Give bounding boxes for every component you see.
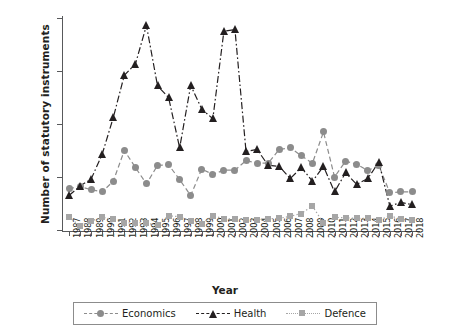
data-point	[77, 223, 83, 229]
x-tick-mark	[213, 232, 214, 236]
data-point	[386, 202, 394, 210]
data-point	[65, 191, 73, 199]
data-point	[66, 214, 72, 220]
data-point	[142, 21, 150, 29]
legend-item-defence[interactable]: Defence	[286, 308, 366, 319]
data-point	[131, 60, 139, 68]
data-point	[353, 161, 360, 168]
data-point	[110, 178, 117, 185]
data-point	[220, 27, 228, 35]
data-point	[309, 203, 315, 209]
data-point	[276, 146, 283, 153]
y-tick-mark	[57, 230, 62, 231]
data-point	[397, 198, 405, 206]
data-point	[109, 113, 117, 121]
y-axis-title: Number of statutory instruments	[39, 9, 51, 239]
x-tick-mark	[80, 232, 81, 236]
data-point	[209, 114, 217, 122]
data-point	[99, 214, 105, 220]
data-point	[176, 143, 184, 151]
square-marker	[286, 309, 320, 319]
x-tick-mark	[124, 232, 125, 236]
x-tick-mark	[390, 232, 391, 236]
data-point	[264, 161, 272, 169]
data-point	[319, 162, 327, 170]
series-lines	[62, 18, 419, 230]
data-point	[232, 216, 238, 222]
x-tick-mark	[301, 232, 302, 236]
legend-item-economics[interactable]: Economics	[84, 308, 176, 319]
x-tick-mark	[246, 232, 247, 236]
data-point	[309, 160, 316, 167]
x-tick-mark	[368, 232, 369, 236]
data-point	[210, 213, 216, 219]
x-tick-mark	[357, 232, 358, 236]
data-point	[375, 158, 383, 166]
data-point	[242, 147, 250, 155]
data-point	[376, 217, 382, 223]
data-point	[121, 220, 127, 226]
x-tick-mark	[180, 232, 181, 236]
data-point	[155, 222, 161, 228]
data-point	[99, 188, 106, 195]
data-point	[154, 81, 162, 89]
data-point	[265, 216, 271, 222]
data-point	[408, 200, 416, 208]
x-tick-mark	[268, 232, 269, 236]
circle-marker	[84, 309, 118, 319]
legend-label: Defence	[324, 308, 366, 319]
x-tick-mark	[69, 232, 70, 236]
legend-label: Economics	[122, 308, 176, 319]
data-point	[243, 217, 249, 223]
data-point	[121, 147, 128, 154]
chart-figure: Number of statutory instruments 01002003…	[0, 0, 450, 336]
x-axis-title: Year	[0, 284, 450, 296]
x-tick-mark	[146, 232, 147, 236]
data-point	[110, 216, 116, 222]
data-point	[409, 188, 416, 195]
x-tick-mark	[346, 232, 347, 236]
data-point	[331, 174, 338, 181]
data-point	[409, 217, 415, 223]
data-point	[320, 220, 326, 226]
data-point	[98, 150, 106, 158]
data-point	[143, 220, 149, 226]
data-point	[286, 174, 294, 182]
data-point	[132, 164, 139, 171]
data-point	[198, 166, 205, 173]
data-point	[88, 218, 94, 224]
data-point	[254, 217, 260, 223]
x-tick-mark	[401, 232, 402, 236]
data-point	[364, 174, 372, 182]
x-tick-mark	[169, 232, 170, 236]
data-point	[87, 175, 95, 183]
data-point	[343, 215, 349, 221]
data-point	[354, 215, 360, 221]
x-tick-mark	[312, 232, 313, 236]
x-tick-mark	[323, 232, 324, 236]
x-tick-mark	[235, 232, 236, 236]
x-tick-mark	[335, 232, 336, 236]
data-point	[177, 214, 183, 220]
x-tick-mark	[379, 232, 380, 236]
x-tick-mark	[202, 232, 203, 236]
x-tick-mark	[158, 232, 159, 236]
data-point	[199, 221, 205, 227]
data-point	[342, 158, 349, 165]
data-point	[276, 215, 282, 221]
legend-label: Health	[234, 308, 267, 319]
legend-item-health[interactable]: Health	[196, 308, 267, 319]
data-point	[221, 216, 227, 222]
data-point	[331, 187, 339, 195]
triangle-marker	[196, 309, 230, 319]
x-tick-mark	[91, 232, 92, 236]
data-point	[220, 167, 227, 174]
data-point	[188, 218, 194, 224]
data-point	[231, 25, 239, 33]
data-point	[120, 71, 128, 79]
data-point	[254, 160, 261, 167]
data-point	[275, 162, 283, 170]
x-tick-mark	[113, 232, 114, 236]
data-point	[253, 145, 261, 153]
x-tick-mark	[224, 232, 225, 236]
